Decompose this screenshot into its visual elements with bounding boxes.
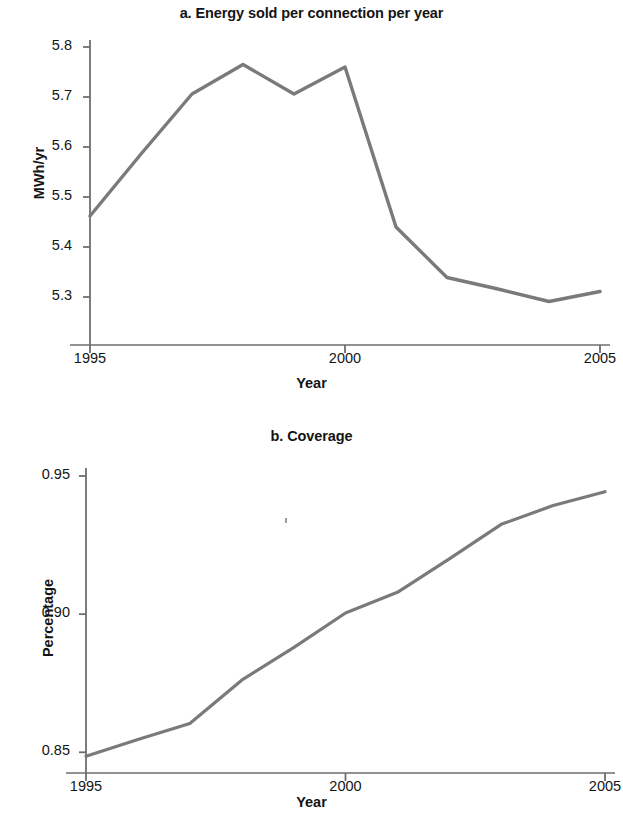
chart-a-ytick-label: 5.3	[0, 287, 72, 303]
chart-a-xtick-label: 2000	[305, 350, 385, 366]
chart-b-svg	[0, 410, 623, 827]
chart-a-ytick-label: 5.5	[0, 187, 72, 203]
chart-b-ytick-label: 0.95	[0, 466, 70, 482]
chart-b-xtick-label: 2005	[565, 778, 623, 794]
chart-a-data-line	[90, 65, 600, 302]
chart-a-plot-area	[0, 0, 623, 400]
chart-b-xtick-label: 2000	[306, 778, 386, 794]
chart-b-data-line	[86, 492, 605, 756]
chart-panel-b: b. Coverage Percentage Year 0.85 0.90 0.…	[0, 410, 623, 827]
chart-b-ytick-label: 0.90	[0, 604, 70, 620]
chart-a-svg	[0, 0, 623, 400]
chart-a-ytick-label: 5.4	[0, 237, 72, 253]
chart-b-ytick-label: 0.85	[0, 742, 70, 758]
chart-a-xtick-label: 2005	[560, 350, 623, 366]
chart-a-ytick-label: 5.7	[0, 87, 72, 103]
chart-a-xtick-label: 1995	[50, 350, 130, 366]
scan-artifact-mark	[285, 518, 287, 523]
chart-a-tick-marks	[83, 47, 600, 353]
chart-b-tick-marks	[79, 476, 605, 781]
chart-a-ytick-label: 5.8	[0, 37, 72, 53]
chart-b-xtick-label: 1995	[46, 778, 126, 794]
chart-b-plot-area	[0, 410, 623, 827]
chart-panel-a: a. Energy sold per connection per year M…	[0, 0, 623, 410]
chart-a-axes	[70, 40, 610, 345]
chart-a-ytick-label: 5.6	[0, 137, 72, 153]
